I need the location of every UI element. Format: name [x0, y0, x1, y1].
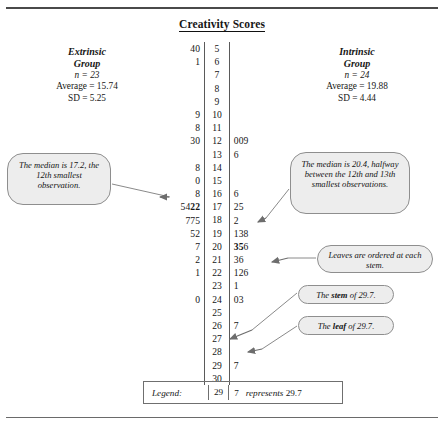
stem-value: 15 [204, 174, 230, 187]
stem-value: 22 [204, 266, 230, 279]
legend-box: Legend: 29 7 represents 29.7 [143, 381, 343, 404]
intrinsic-group-name-line1: Intrinsic [282, 46, 432, 58]
stem-row: 122126 [155, 266, 277, 279]
right-leaves: 36 [230, 254, 277, 265]
stem-row: 297 [155, 359, 277, 372]
stem-and-leaf-plot: 4051678991081130120091368140158166542217… [155, 42, 277, 385]
stem-value: 21 [204, 253, 230, 266]
callout-leaf-bold: leaf [333, 321, 346, 331]
right-leaves: 25 [230, 201, 277, 212]
left-leaves: 52 [155, 228, 204, 239]
stem-row: 720356 [155, 240, 277, 253]
intrinsic-group-n: n = 24 [282, 70, 432, 81]
right-leaves: 356 [230, 241, 277, 252]
stem-value: 8 [204, 82, 230, 95]
left-leaves: 1 [155, 56, 204, 67]
stem-value: 23 [204, 279, 230, 292]
right-leaves: 03 [230, 294, 277, 305]
intrinsic-group-name-line2: Group [282, 58, 432, 70]
stem-row: 814 [155, 161, 277, 174]
callout-stem-bold: stem [331, 290, 347, 300]
stem-row: 405 [155, 42, 277, 55]
stem-row: 8 [155, 82, 277, 95]
top-divider-rule [6, 7, 438, 9]
bottom-divider-rule [6, 417, 438, 418]
extrinsic-group-header: Extrinsic Group n = 23 Average = 15.74 S… [12, 46, 162, 104]
intrinsic-group-average: Average = 19.88 [282, 81, 432, 92]
right-leaves: 7 [230, 360, 277, 371]
stem-value: 18 [204, 213, 230, 226]
stem-value: 12 [204, 134, 230, 147]
stem-row: 16 [155, 55, 277, 68]
stem-row: 8166 [155, 187, 277, 200]
stem-row: 25 [155, 306, 277, 319]
stem-value: 16 [204, 187, 230, 200]
callout-leaf-post: of 29.7. [346, 321, 374, 331]
stem-value: 17 [204, 200, 230, 213]
legend-leaf-value: 7 [229, 388, 243, 398]
stem-row: 28 [155, 345, 277, 358]
stem-row: 3012009 [155, 134, 277, 147]
stem-value: 7 [204, 68, 230, 81]
intrinsic-group-header: Intrinsic Group n = 24 Average = 19.88 S… [282, 46, 432, 104]
stem-value: 20 [204, 240, 230, 253]
stem-row: 811 [155, 121, 277, 134]
stem-value: 13 [204, 148, 230, 161]
legend-description-value: 29.7 [286, 388, 302, 398]
left-leaves: 8 [155, 162, 204, 173]
left-leaves: 5422 [155, 201, 204, 212]
stem-value: 11 [204, 121, 230, 134]
legend-description-word: represents [246, 388, 284, 398]
stem-value: 29 [204, 359, 230, 372]
stem-value: 5 [204, 42, 230, 55]
stem-value: 9 [204, 95, 230, 108]
stem-row: 231 [155, 279, 277, 292]
left-leaves: 9 [155, 109, 204, 120]
callout-leaves-ordered: Leaves are ordered at each stem. [317, 245, 433, 273]
callout-stem-pre: The [316, 290, 331, 300]
extrinsic-group-sd: SD = 5.25 [12, 93, 162, 104]
stem-value: 14 [204, 161, 230, 174]
stem-value: 10 [204, 108, 230, 121]
callout-leaf-of: The leaf of 29.7. [298, 316, 394, 335]
extrinsic-group-n: n = 23 [12, 70, 162, 81]
left-leaves: 0 [155, 175, 204, 186]
stem-value: 6 [204, 55, 230, 68]
callout-stem-post: of 29.7. [348, 290, 376, 300]
extrinsic-group-name-line1: Extrinsic [12, 46, 162, 58]
right-leaves: 2 [230, 215, 277, 226]
right-leaves: 6 [230, 188, 277, 199]
stem-row: 22136 [155, 253, 277, 266]
stem-value: 24 [204, 293, 230, 306]
stem-row: 015 [155, 174, 277, 187]
left-leaves: 0 [155, 294, 204, 305]
legend-stem-value: 29 [208, 385, 229, 400]
callout-leaf-pre: The [318, 321, 333, 331]
right-leaves: 126 [230, 267, 277, 278]
right-leaves: 6 [230, 149, 277, 160]
left-leaves: 775 [155, 215, 204, 226]
stem-value: 25 [204, 306, 230, 319]
left-leaves: 40 [155, 43, 204, 54]
page-title-text: Creativity Scores [179, 18, 265, 32]
left-leaves: 2 [155, 254, 204, 265]
right-leaves: 7 [230, 320, 277, 331]
right-leaves: 1 [230, 280, 277, 291]
right-leaves: 009 [230, 135, 277, 146]
stem-value: 28 [204, 345, 230, 358]
stem-row: 5219138 [155, 227, 277, 240]
stem-row: 54221725 [155, 200, 277, 213]
stem-row: 27 [155, 332, 277, 345]
stem-value: 27 [204, 332, 230, 345]
legend-label: Legend: [144, 388, 208, 398]
stem-value: 26 [204, 319, 230, 332]
stem-row: 02403 [155, 293, 277, 306]
legend-description: represents 29.7 [243, 388, 302, 398]
callout-right-median: The median is 20.4, halfway between the … [290, 152, 410, 214]
stem-row: 7 [155, 68, 277, 81]
stem-row: 136 [155, 148, 277, 161]
left-leaves: 7 [155, 241, 204, 252]
callout-stem-of: The stem of 29.7. [298, 285, 394, 304]
left-leaves: 8 [155, 188, 204, 199]
right-leaves: 138 [230, 228, 277, 239]
